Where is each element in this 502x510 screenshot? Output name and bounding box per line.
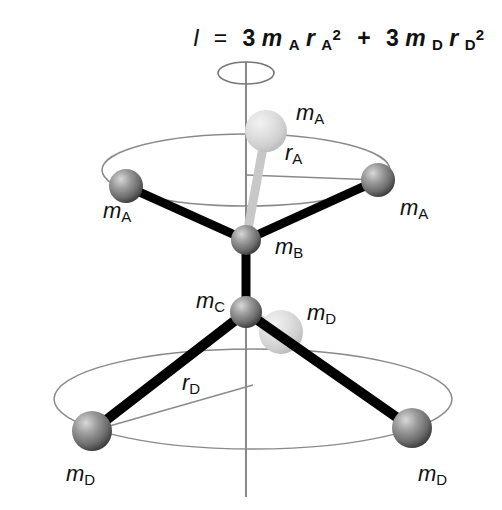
label-mD-left-m: m [66,461,84,486]
formula-term1-exponent: 2 [332,26,340,43]
formula-term1-coefficient: 3 [243,25,256,51]
label-rA-sub: A [292,150,302,167]
label-radius-rD: rD [182,370,200,397]
molecule-rotation-diagram: I = 3 m A r A 2 + 3 m D r D 2 [0,0,502,510]
formula-term1-radius: r [306,25,316,51]
label-mA-back-sub: A [314,110,324,127]
bond-mB-to-mA-left [126,186,246,240]
atom-mC [230,296,262,328]
label-mA-right-m: m [400,195,418,220]
label-rD-sub: D [189,380,200,397]
label-mD-back-sub: D [325,310,336,327]
formula-equals: = [214,25,227,51]
bond-mC-to-mD-left [92,312,246,431]
atom-mA-right [361,163,395,197]
label-mB-sub: B [293,244,303,261]
label-mA-right-sub: A [418,205,428,222]
label-mA-left-m: m [103,198,121,223]
formula-term2-mass: m [405,25,425,51]
label-mD-left-sub: D [84,471,95,488]
atom-mA-back [245,110,287,152]
moment-of-inertia-formula: I = 3 m A r A 2 + 3 m D r D 2 [193,25,484,53]
label-mA-back-m: m [296,100,314,125]
radius-line-rA [246,175,378,180]
label-mD-right-sub: D [436,471,447,488]
label-mA-left-sub: A [121,208,131,225]
label-atom-mD-left: mD [66,461,95,488]
formula-term1-mass: m [262,25,282,51]
label-mC-m: m [196,288,214,313]
formula-term2-mass-sub: D [432,36,443,53]
label-mD-right-m: m [418,461,436,486]
figure-canvas: I = 3 m A r A 2 + 3 m D r D 2 [0,0,502,510]
label-atom-mD-back: mD [307,300,336,327]
bond-mC-to-mD-right [246,312,412,428]
lower-orbit-ellipse [54,349,452,449]
label-atom-mA-back: mA [296,100,324,127]
label-atom-mB: mB [275,234,303,261]
label-atom-mC: mC [196,288,225,315]
formula-plus: + [357,25,370,51]
label-atom-mD-right: mD [418,461,447,488]
formula-symbol-I: I [193,25,200,51]
formula-term2-radius-sub: D [465,36,476,53]
atom-mD-right [392,408,432,448]
label-radius-rA: rA [285,140,302,167]
label-mD-back-m: m [307,300,325,325]
atom-mB [231,225,261,255]
atom-mD-left [72,411,112,451]
label-atom-mA-right: mA [400,195,428,222]
formula-term1-radius-sub: A [321,36,332,53]
label-mC-sub: C [214,298,225,315]
formula-term2-coefficient: 3 [386,25,399,51]
formula-term1-mass-sub: A [289,36,300,53]
formula-term2-exponent: 2 [476,26,484,43]
bond-mB-to-mA-right [246,180,378,240]
label-mB-m: m [275,234,293,259]
formula-term2-radius: r [449,25,459,51]
